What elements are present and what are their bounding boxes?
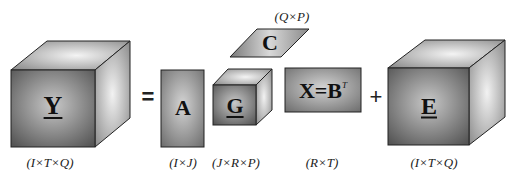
plus-sign: + (370, 84, 383, 110)
dims-label-g: (J×R×P) (212, 155, 260, 171)
symbol-c: C (262, 30, 278, 56)
tensor-e-cube (388, 40, 505, 145)
tensor-y-cube (11, 41, 130, 147)
superscript-t: T (342, 80, 347, 90)
symbol-x-text: X=B (299, 78, 342, 103)
symbol-x-equals-bt: X=BT (299, 78, 347, 104)
symbol-e: E (421, 93, 437, 120)
dims-label-y: (I×T×Q) (26, 155, 73, 171)
dims-label-e: (I×T×Q) (410, 155, 457, 171)
tensor-decomposition-diagram (0, 0, 516, 180)
dims-label-a: (I×J) (169, 155, 197, 171)
dims-label-c: (Q×P) (275, 9, 310, 25)
symbol-y: Y (44, 91, 63, 121)
symbol-g: G (226, 93, 243, 119)
equals-sign: = (142, 84, 155, 110)
symbol-a: A (175, 95, 191, 121)
dims-label-x: (R×T) (306, 155, 339, 171)
